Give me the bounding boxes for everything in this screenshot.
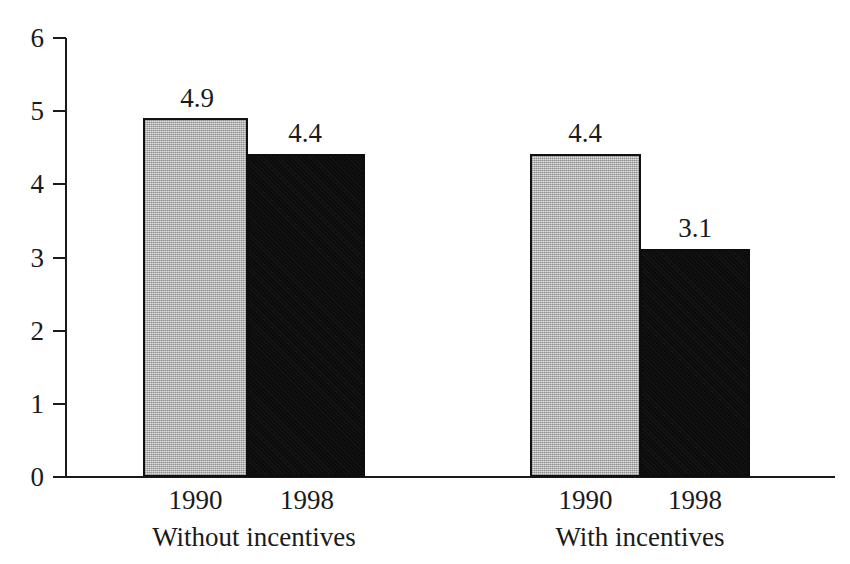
y-tick-label-1: 1 — [14, 391, 44, 418]
y-tick-3 — [53, 257, 66, 259]
group-label-without-incentives: Without incentives — [143, 524, 365, 551]
bar-without-incentives-1990 — [143, 118, 248, 477]
y-tick-label-2: 2 — [14, 318, 44, 345]
category-label-with-incentives-1990: 1990 — [530, 487, 641, 514]
y-tick-2 — [53, 330, 66, 332]
bar-without-incentives-1998 — [247, 154, 365, 477]
category-label-without-incentives-1990: 1990 — [143, 487, 248, 514]
bar-with-incentives-1990 — [530, 154, 641, 477]
value-label-with-incentives-1998: 3.1 — [643, 215, 747, 242]
y-tick-6 — [53, 37, 66, 39]
y-tick-label-3: 3 — [14, 245, 44, 272]
category-label-without-incentives-1998: 1998 — [249, 487, 365, 514]
value-label-with-incentives-1990: 4.4 — [533, 120, 637, 147]
group-label-with-incentives: With incentives — [530, 524, 750, 551]
y-tick-label-0: 0 — [14, 464, 44, 491]
value-label-without-incentives-1990: 4.9 — [145, 85, 249, 112]
y-tick-label-6: 6 — [14, 25, 44, 52]
y-tick-0 — [53, 476, 66, 478]
bar-with-incentives-1998 — [640, 249, 750, 477]
y-tick-label-5: 5 — [14, 98, 44, 125]
value-label-without-incentives-1998: 4.4 — [253, 120, 357, 147]
y-tick-1 — [53, 403, 66, 405]
y-tick-4 — [53, 183, 66, 185]
bar-chart: 6 5 4 3 2 1 0 4.9 4.4 1990 1998 Without … — [0, 0, 850, 564]
y-tick-label-4: 4 — [14, 171, 44, 198]
y-tick-5 — [53, 110, 66, 112]
category-label-with-incentives-1998: 1998 — [640, 487, 750, 514]
